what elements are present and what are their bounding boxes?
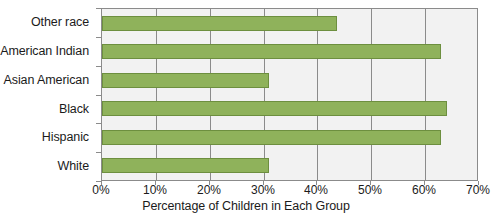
x-axis-tick-labels: 0%10%20%30%40%50%60%70% (101, 184, 478, 200)
x-tick-label-50%: 50% (358, 184, 382, 196)
bar-row (102, 152, 477, 181)
category-label-white: White (0, 152, 96, 181)
category-axis: Other race American Indian Asian America… (0, 8, 96, 181)
bar-other-race (102, 16, 337, 31)
bar-row (102, 95, 477, 124)
category-label-asian-american: Asian American (0, 66, 96, 95)
x-axis-title: Percentage of Children in Each Group (0, 200, 492, 213)
bar-white (102, 158, 269, 173)
x-tick-label-70%: 70% (466, 184, 490, 196)
x-tick-label-0%: 0% (92, 184, 109, 196)
bar-american-indian (102, 44, 441, 59)
category-label-hispanic: Hispanic (0, 123, 96, 152)
bar-row (102, 9, 477, 38)
bar-asian-american (102, 73, 269, 88)
bar-row (102, 66, 477, 95)
x-tick-label-10%: 10% (143, 184, 167, 196)
category-label-black: Black (0, 94, 96, 123)
category-label-other-race: Other race (0, 8, 96, 37)
x-tick-label-30%: 30% (251, 184, 275, 196)
bar-row (102, 123, 477, 152)
bar-series (102, 9, 477, 180)
bar-chart: Other race American Indian Asian America… (0, 0, 492, 218)
x-tick-label-60%: 60% (412, 184, 436, 196)
x-tick-label-40%: 40% (304, 184, 328, 196)
bar-hispanic (102, 130, 441, 145)
category-label-american-indian: American Indian (0, 37, 96, 66)
bar-row (102, 38, 477, 67)
plot-area (101, 8, 478, 181)
bar-black (102, 101, 447, 116)
x-tick-label-20%: 20% (197, 184, 221, 196)
